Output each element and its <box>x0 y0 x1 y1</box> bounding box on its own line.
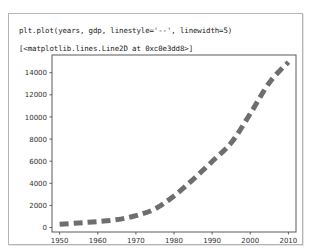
plot-canvas: 02000400060008000100001200014000 1950196… <box>9 49 304 246</box>
y-tick-label: 4000 <box>29 180 47 188</box>
code-input-line[interactable]: plt.plot(years, gdp, linestyle='--', lin… <box>19 26 232 36</box>
y-tick-label: 10000 <box>25 114 47 122</box>
x-tick-label: 1950 <box>51 237 69 245</box>
data-series-group <box>60 62 289 224</box>
axes-frame <box>52 55 296 232</box>
y-tick-label: 12000 <box>25 91 47 99</box>
y-tick-label: 0 <box>43 224 47 232</box>
notebook-code-cell[interactable]: plt.plot(years, gdp, linestyle='--', lin… <box>8 13 303 245</box>
data-line-gdp <box>60 62 289 224</box>
y-tick-label: 14000 <box>25 69 47 77</box>
x-tick-label: 2010 <box>279 237 297 245</box>
x-tick-label: 1980 <box>165 237 183 245</box>
y-tick-label: 2000 <box>29 202 47 210</box>
x-tick-label: 1970 <box>127 237 145 245</box>
x-tick-label: 1990 <box>203 237 221 245</box>
x-tick-label: 2000 <box>241 237 259 245</box>
x-tick-label: 1960 <box>89 237 107 245</box>
matplotlib-figure: 02000400060008000100001200014000 1950196… <box>9 49 304 246</box>
y-tick-label: 6000 <box>29 158 47 166</box>
x-axis-tick-labels: 1950196019701980199020002010 <box>51 237 298 245</box>
y-tick-label: 8000 <box>29 136 47 144</box>
y-axis-tick-labels: 02000400060008000100001200014000 <box>25 69 47 232</box>
